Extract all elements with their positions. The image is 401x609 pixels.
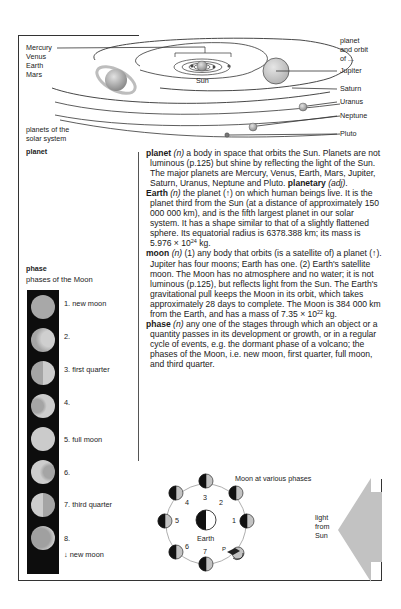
column-divider: [138, 152, 139, 461]
moon-phase-6-icon: [31, 460, 55, 484]
part-of-speech: (n): [173, 319, 183, 329]
headword: phase: [146, 319, 171, 329]
derived-word: planetary: [288, 178, 326, 188]
phase-label: 8.: [64, 534, 70, 543]
moon-phase-7-icon: [31, 493, 55, 517]
sidebar-heading-phase: phase: [26, 265, 47, 274]
definitions-column: planet (n) a body in space that orbits t…: [146, 148, 384, 369]
part-of-speech: (adj): [328, 178, 345, 188]
sidebar-heading-planet: planet: [26, 148, 47, 157]
cycle-note: ↓ new moon: [64, 550, 104, 559]
entry-moon: moon (n) (1) any body that orbits (is a …: [146, 248, 384, 318]
phase-label: 3. first quarter: [64, 365, 110, 374]
phase-label: 4.: [64, 398, 70, 407]
earth-label: Earth: [197, 535, 214, 544]
position-label: 3: [203, 494, 207, 503]
outer-planet-label: Saturn: [340, 85, 361, 94]
definition-text: the planet (↑) on which human beings liv…: [150, 188, 379, 248]
moon-phase-3-icon: [31, 361, 55, 385]
unit: kg.: [323, 309, 337, 319]
punctuation: .: [345, 178, 347, 188]
headword: Earth: [146, 188, 168, 198]
position-label: 4: [185, 499, 189, 508]
moon-phase-4-icon: [31, 394, 55, 418]
outer-planet-label: Pluto: [340, 130, 356, 139]
definition-text: any one of the stages through which an o…: [150, 319, 377, 369]
light-label: Sun: [315, 532, 328, 541]
phase-label: 1. new moon: [64, 299, 106, 308]
position-label: 2: [219, 499, 223, 508]
sunlight-arrow-icon: [336, 478, 382, 582]
position-label: 5: [175, 517, 179, 526]
outer-planet-label: Jupiter: [340, 67, 362, 76]
phase-label: 5. full moon: [64, 435, 102, 444]
part-of-speech: (n): [170, 188, 180, 198]
position-label: 1: [232, 517, 236, 526]
orbit-caption: of ...: [340, 55, 354, 64]
moon-phase-1-icon: [31, 295, 55, 319]
definition-text: (1) any body that orbits (is a satellite…: [150, 248, 382, 318]
diagram-caption: solar system: [26, 135, 66, 144]
position-label: 6: [185, 543, 189, 552]
position-label: P: [222, 545, 226, 554]
part-of-speech: (n): [172, 248, 182, 258]
inner-planet-label: Mars: [26, 71, 42, 80]
frame-bottom: [18, 580, 382, 581]
entry-planet: planet (n) a body in space that orbits t…: [146, 148, 384, 188]
outer-planet-label: Neptune: [340, 112, 367, 121]
phase-label: 6.: [64, 468, 70, 477]
entry-phase: phase (n) any one of the stages through …: [146, 319, 384, 369]
outer-planet-label: Uranus: [340, 98, 363, 107]
sun-label: Sun: [196, 77, 209, 86]
moon-orbit-diagram: [140, 470, 340, 580]
unit: kg.: [197, 238, 211, 248]
moon-phase-8-icon: [31, 526, 55, 550]
moon-phase-5-icon: [31, 427, 55, 451]
part-of-speech: (n): [174, 148, 184, 158]
moon-phase-strip: [27, 290, 59, 574]
entry-earth: Earth (n) the planet (↑) on which human …: [146, 188, 384, 248]
phase-label: 2.: [64, 332, 70, 341]
position-label: 7: [203, 548, 207, 557]
phase-label: 7. third quarter: [64, 500, 112, 509]
headword: moon: [146, 248, 169, 258]
sidebar-subheading: phases of the Moon: [26, 276, 93, 285]
headword: planet: [146, 148, 171, 158]
moon-phase-2-icon: [31, 328, 55, 352]
